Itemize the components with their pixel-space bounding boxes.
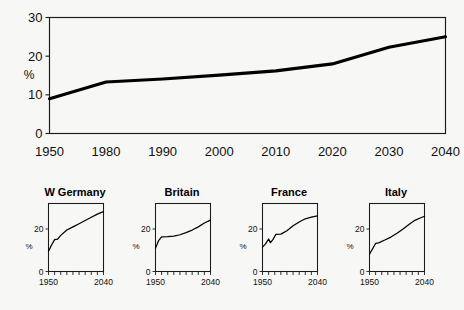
main-chart: 0102030 19501980199020002010202020302040…: [24, 10, 460, 159]
small-multiples: W Germany % 02019502040 Britain % 020195…: [25, 186, 434, 287]
main-x-tick-label: 2020: [318, 144, 347, 159]
panel-y-tick-label: 0: [39, 267, 44, 277]
panel-y-tick-label: 20: [34, 224, 44, 234]
panel-x-tick-label: 1950: [253, 277, 272, 287]
figure-canvas: 0102030 19501980199020002010202020302040…: [0, 0, 464, 310]
panel-x-tick-label: 2040: [308, 277, 327, 287]
panel-ticks-italy: 02019502040: [355, 224, 434, 287]
panel-ticks-w-germany: 02019502040: [34, 224, 113, 287]
panel-y-label-w-germany: %: [25, 242, 32, 251]
panel-italy: Italy % 02019502040: [346, 186, 434, 287]
panel-x-tick-label: 1950: [360, 277, 379, 287]
chart-figure: 0102030 19501980199020002010202020302040…: [0, 0, 464, 310]
panel-y-label-italy: %: [346, 242, 353, 251]
panel-y-label-britain: %: [132, 242, 139, 251]
panel-x-tick-label: 2040: [94, 277, 113, 287]
panel-x-tick-label: 1950: [39, 277, 58, 287]
main-y-ticks: [46, 18, 50, 134]
panel-title-france: France: [271, 186, 307, 198]
panel-title-italy: Italy: [385, 186, 408, 198]
panel-frame-w-germany: [49, 204, 104, 272]
main-x-tick-label: 2010: [261, 144, 290, 159]
panel-ticks-france: 02019502040: [248, 224, 327, 287]
main-y-tick-label: 30: [28, 10, 42, 25]
main-y-axis-label: %: [24, 68, 35, 82]
panel-y-tick-label: 0: [360, 267, 365, 277]
main-x-tick-label: 2000: [205, 144, 234, 159]
main-x-tick-label: 2030: [374, 144, 403, 159]
panel-frame-britain: [156, 204, 211, 272]
main-x-tick-label: 2040: [431, 144, 460, 159]
main-x-tick-label: 1980: [92, 144, 121, 159]
panel-title-britain: Britain: [165, 186, 200, 198]
main-y-tick-label: 0: [35, 126, 42, 141]
panel-y-label-france: %: [239, 242, 246, 251]
panel-y-tick-label: 20: [248, 224, 258, 234]
panel-y-tick-label: 20: [141, 224, 151, 234]
main-y-tick-label: 10: [28, 87, 42, 102]
panel-x-tick-label: 2040: [415, 277, 434, 287]
panel-britain: Britain % 02019502040: [132, 186, 220, 287]
main-plot-frame: [50, 18, 446, 134]
panel-france: France % 02019502040: [239, 186, 327, 287]
panel-title-w-germany: W Germany: [44, 186, 106, 198]
main-series-line: [50, 37, 446, 99]
panel-y-tick-label: 0: [253, 267, 258, 277]
panel-frame-italy: [370, 204, 425, 272]
panel-series-w-germany: [49, 212, 104, 252]
panel-ticks-britain: 02019502040: [141, 224, 220, 287]
main-y-tick-label: 20: [28, 49, 42, 64]
panel-w-germany: W Germany % 02019502040: [25, 186, 113, 287]
panel-series-france: [263, 216, 318, 247]
panel-x-tick-label: 2040: [201, 277, 220, 287]
panel-series-britain: [156, 220, 211, 248]
panel-x-tick-label: 1950: [146, 277, 165, 287]
panel-frame-france: [263, 204, 318, 272]
main-x-tick-label: 1990: [148, 144, 177, 159]
panel-y-tick-label: 20: [355, 224, 365, 234]
main-x-tick-label: 1950: [35, 144, 64, 159]
main-x-tick-labels: 19501980199020002010202020302040: [35, 144, 460, 159]
panel-series-italy: [370, 216, 425, 254]
panel-y-tick-label: 0: [146, 267, 151, 277]
